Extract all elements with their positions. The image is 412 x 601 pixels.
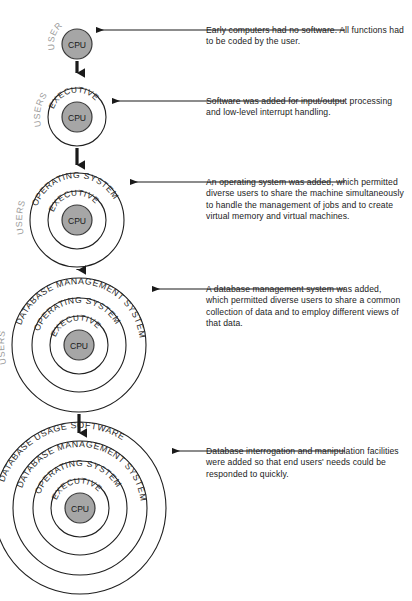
cpu-core-label: CPU [68,216,86,226]
stage-caption: Software was added for input/output proc… [206,96,406,119]
stage-caption: A database management system was added, … [206,284,406,330]
stage-caption: Early computers had no software. All fun… [206,25,406,48]
stage-group-5: EXECUTIVEOPERATING SYSTEMDATABASE MANAGE… [0,420,166,594]
users-label: USERS [0,0,64,51]
stage-caption: Database interrogation and manipulation … [206,446,406,480]
users-label: USERS [0,330,8,366]
stage-group-4: EXECUTIVEOPERATING SYSTEMDATABASE MANAGE… [0,276,148,412]
users-label: USERS [32,90,49,127]
evolution-diagram: CPUUSERSEXECUTIVECPUUSERSEXECUTIVEOPERAT… [0,0,412,601]
stage-group-1: CPUUSERS [0,0,92,59]
stage-caption: An operating system was added, which per… [206,177,406,223]
stage-group-2: EXECUTIVECPUUSERS [32,85,106,146]
users-label: USERS [14,199,27,236]
stage-group-3: EXECUTIVEOPERATING SYSTEMCPUUSERS [14,170,124,267]
cpu-core-label: CPU [68,113,86,123]
cpu-core-label: CPU [68,40,86,50]
cpu-core-label: CPU [71,504,89,514]
cpu-core-label: CPU [70,341,88,351]
